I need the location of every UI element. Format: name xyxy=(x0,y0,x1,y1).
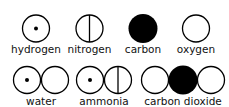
water-label: water xyxy=(26,96,56,107)
nitrogen-icon xyxy=(76,15,103,42)
hydrogen-icon xyxy=(23,15,50,42)
oxygen-label: oxygen xyxy=(177,44,215,55)
water-icon xyxy=(14,67,69,94)
nitrogen-label: nitrogen xyxy=(68,44,112,55)
ammonia-icon xyxy=(77,67,132,94)
carbon-dioxide-label: carbon dioxide xyxy=(144,96,222,107)
ammonia-label: ammonia xyxy=(79,96,128,107)
carbon-label: carbon xyxy=(125,44,161,55)
hydrogen-label: hydrogen xyxy=(11,44,61,55)
oxygen-icon xyxy=(183,15,210,42)
carbon-dioxide-icon xyxy=(142,66,225,95)
carbon-icon xyxy=(129,14,158,43)
